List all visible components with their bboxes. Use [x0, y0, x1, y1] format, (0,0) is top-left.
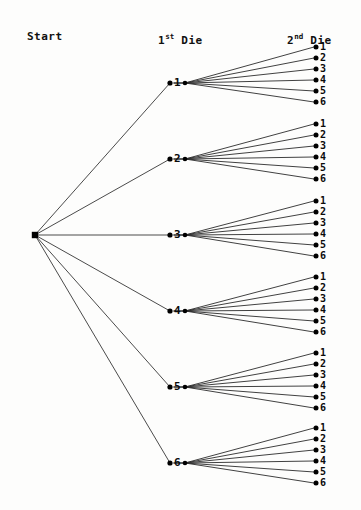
leaf-node-label-5-5: 5 [320, 392, 326, 402]
header-first-die-ordinal: st [165, 32, 174, 41]
branch-node-dot-6 [167, 460, 172, 465]
edge-branch-3-to-leaf-4 [185, 234, 314, 235]
leaf-node-dot-5-3 [314, 373, 319, 378]
leaf-node-label-2-3: 3 [320, 141, 326, 151]
leaf-node-dot-3-1 [314, 199, 319, 204]
edge-root-to-branch-4 [35, 235, 170, 311]
edge-branch-3-to-leaf-5 [185, 235, 314, 245]
edge-branch-6-to-leaf-5 [185, 463, 314, 472]
leaf-node-dot-5-2 [314, 362, 319, 367]
leaf-node-label-5-2: 2 [320, 359, 326, 369]
leaf-node-dot-1-5 [314, 89, 319, 94]
leaf-node-label-1-4: 4 [320, 75, 326, 85]
leaf-node-label-6-5: 5 [320, 467, 326, 477]
edge-branch-3-to-leaf-6 [185, 235, 314, 256]
edge-root-to-branch-2 [35, 159, 170, 235]
leaf-node-dot-3-4 [314, 232, 319, 237]
edge-branch-4-to-leaf-2 [185, 288, 314, 311]
leaf-node-dot-1-2 [314, 56, 319, 61]
edge-branch-1-to-leaf-6 [185, 83, 314, 102]
branch-fan-dot-1 [183, 81, 188, 86]
edge-root-to-branch-6 [35, 235, 170, 463]
leaf-node-label-1-2: 2 [320, 53, 326, 63]
edge-branch-5-to-leaf-3 [185, 375, 314, 387]
leaf-node-label-2-2: 2 [320, 130, 326, 140]
leaf-node-dot-6-4 [314, 459, 319, 464]
branch-node-label-4: 4 [174, 305, 181, 316]
branch-node-label-1: 1 [174, 77, 181, 88]
leaf-node-label-5-6: 6 [320, 403, 326, 413]
edge-root-to-branch-1 [35, 83, 170, 235]
leaf-node-dot-2-3 [314, 144, 319, 149]
leaf-node-label-6-3: 3 [320, 445, 326, 455]
leaf-node-dot-2-2 [314, 133, 319, 138]
leaf-node-dot-5-1 [314, 351, 319, 356]
leaf-node-dot-2-5 [314, 166, 319, 171]
leaf-node-label-5-3: 3 [320, 370, 326, 380]
edge-branch-2-to-leaf-5 [185, 159, 314, 168]
leaf-node-dot-4-6 [314, 330, 319, 335]
branch-node-label-3: 3 [174, 229, 181, 240]
leaf-node-dot-6-5 [314, 470, 319, 475]
branch-fan-dot-6 [183, 461, 188, 466]
edge-branch-1-to-leaf-2 [185, 58, 314, 83]
leaf-node-dot-3-6 [314, 254, 319, 259]
leaf-node-label-3-6: 6 [320, 251, 326, 261]
branch-node-label-2: 2 [174, 153, 181, 164]
leaf-node-label-4-4: 4 [320, 305, 326, 315]
leaf-node-dot-1-6 [314, 100, 319, 105]
branch-fan-dot-4 [183, 309, 188, 314]
leaf-node-dot-1-3 [314, 67, 319, 72]
edge-branch-3-to-leaf-3 [185, 223, 314, 235]
leaf-node-label-1-1: 1 [320, 42, 326, 52]
leaf-node-label-5-1: 1 [320, 348, 326, 358]
branch-node-dot-1 [167, 80, 172, 85]
branch-node-dot-2 [167, 156, 172, 161]
edge-branch-5-to-leaf-1 [185, 353, 314, 387]
leaf-node-label-3-5: 5 [320, 240, 326, 250]
header-start-label: Start [27, 30, 63, 43]
edge-branch-5-to-leaf-4 [185, 386, 314, 387]
leaf-node-label-2-4: 4 [320, 152, 326, 162]
leaf-node-dot-3-2 [314, 210, 319, 215]
leaf-node-label-3-1: 1 [320, 196, 326, 206]
edge-branch-4-to-leaf-5 [185, 311, 314, 321]
leaf-node-label-4-2: 2 [320, 283, 326, 293]
branch-node-label-5: 5 [174, 381, 181, 392]
edge-branch-6-to-leaf-1 [185, 428, 314, 463]
leaf-node-label-5-4: 4 [320, 381, 326, 391]
leaf-node-dot-4-1 [314, 275, 319, 280]
edge-branch-1-to-leaf-1 [185, 47, 314, 83]
leaf-node-label-2-5: 5 [320, 163, 326, 173]
branch-fan-dot-3 [183, 233, 188, 238]
leaf-node-dot-6-6 [314, 481, 319, 486]
leaf-node-label-6-2: 2 [320, 434, 326, 444]
leaf-node-dot-3-3 [314, 221, 319, 226]
branch-fan-dot-2 [183, 157, 188, 162]
edge-branch-4-to-leaf-1 [185, 277, 314, 311]
header-start: Start [27, 31, 63, 43]
header-first-die-word: Die [174, 34, 203, 47]
leaf-node-label-2-6: 6 [320, 174, 326, 184]
header-first-die: 1st Die [158, 31, 203, 47]
edge-branch-3-to-leaf-2 [185, 212, 314, 235]
leaf-node-label-3-2: 2 [320, 207, 326, 217]
edge-branch-5-to-leaf-2 [185, 364, 314, 387]
leaf-node-label-2-1: 1 [320, 119, 326, 129]
leaf-node-dot-5-5 [314, 395, 319, 400]
leaf-node-dot-6-2 [314, 437, 319, 442]
leaf-node-dot-5-6 [314, 406, 319, 411]
edge-branch-4-to-leaf-6 [185, 311, 314, 332]
root-node-dot [32, 232, 38, 238]
edge-branch-5-to-leaf-5 [185, 387, 314, 397]
leaf-node-dot-6-1 [314, 426, 319, 431]
leaf-node-dot-4-3 [314, 297, 319, 302]
branch-node-label-6: 6 [174, 457, 181, 468]
leaf-node-dot-4-5 [314, 319, 319, 324]
edge-branch-2-to-leaf-6 [185, 159, 314, 179]
leaf-node-dot-3-5 [314, 243, 319, 248]
leaf-node-label-4-6: 6 [320, 327, 326, 337]
leaf-node-dot-5-4 [314, 384, 319, 389]
leaf-node-label-6-6: 6 [320, 478, 326, 488]
edge-branch-5-to-leaf-6 [185, 387, 314, 408]
